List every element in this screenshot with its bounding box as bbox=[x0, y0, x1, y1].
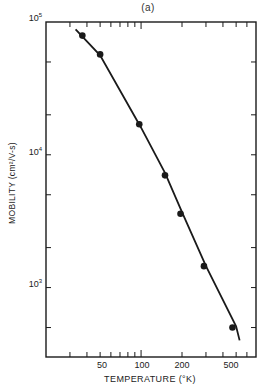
x-axis-label: TEMPERATURE (°K) bbox=[60, 374, 240, 384]
axis-ticks bbox=[46, 22, 256, 357]
data-point bbox=[229, 324, 236, 331]
fit-curve bbox=[76, 29, 240, 340]
plot-frame bbox=[46, 22, 256, 357]
data-points bbox=[79, 32, 236, 331]
chart-canvas bbox=[0, 0, 268, 390]
data-point bbox=[97, 51, 104, 58]
data-point bbox=[136, 121, 143, 128]
y-axis-label: MOBILITY (cm²/V-s) bbox=[7, 113, 17, 253]
x-tick-label-200: 200 bbox=[167, 360, 197, 370]
data-point bbox=[201, 263, 208, 270]
data-point bbox=[79, 32, 86, 39]
x-tick-label-100: 100 bbox=[127, 360, 157, 370]
data-point bbox=[177, 210, 184, 217]
y-tick-label-1e4: 104 bbox=[12, 146, 42, 157]
data-point bbox=[162, 172, 169, 179]
y-tick-label-1e5: 105 bbox=[12, 12, 42, 23]
x-tick-label-500: 500 bbox=[216, 360, 246, 370]
y-tick-label-1e3: 103 bbox=[12, 278, 42, 289]
chart-title: (a) bbox=[128, 2, 168, 13]
x-tick-label-50: 50 bbox=[87, 360, 117, 370]
